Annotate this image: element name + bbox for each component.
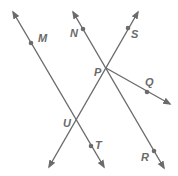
line-NR bbox=[73, 12, 164, 168]
label-T: T bbox=[95, 139, 103, 151]
point-S bbox=[126, 26, 131, 31]
point-R bbox=[152, 149, 157, 154]
geometry-diagram: MNSPQUTR bbox=[0, 0, 178, 176]
label-R: R bbox=[141, 151, 149, 163]
point-N bbox=[81, 27, 86, 32]
label-N: N bbox=[70, 27, 79, 39]
label-U: U bbox=[63, 117, 72, 129]
point-T bbox=[89, 144, 94, 149]
line-SU bbox=[49, 12, 138, 167]
label-M: M bbox=[38, 32, 48, 44]
point-Q bbox=[145, 90, 150, 95]
line-MT bbox=[13, 12, 104, 167]
label-S: S bbox=[131, 28, 139, 40]
label-P: P bbox=[94, 66, 102, 78]
point-M bbox=[29, 41, 34, 46]
label-Q: Q bbox=[145, 76, 154, 88]
